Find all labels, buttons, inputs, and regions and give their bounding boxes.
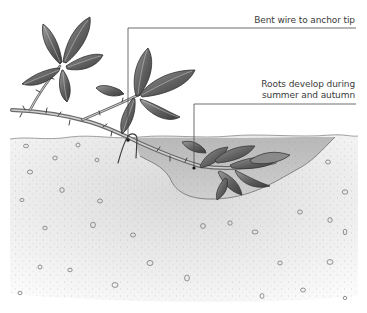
annotation-roots: Roots develop during summer and autumn xyxy=(261,79,355,101)
annotation-wire-text: Bent wire to anchor tip xyxy=(254,15,355,25)
annotation-roots-line-1: Roots develop during xyxy=(261,79,355,90)
leaf-cluster-middle xyxy=(96,48,195,134)
leaf-cluster-upper xyxy=(22,17,103,102)
annotation-roots-line-2: summer and autumn xyxy=(261,90,355,101)
illustration-canvas xyxy=(0,0,367,313)
layering-illustration: Bent wire to anchor tip Roots develop du… xyxy=(0,0,367,313)
annotation-wire: Bent wire to anchor tip xyxy=(254,15,355,26)
